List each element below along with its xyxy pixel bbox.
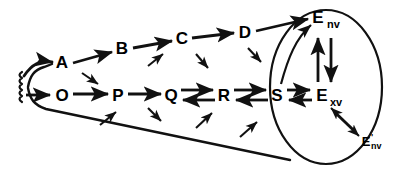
node-label-D: D <box>239 23 251 42</box>
exv-subscript: xv <box>330 96 343 108</box>
node-label-R: R <box>218 86 230 105</box>
eprime-subscript: nv <box>371 141 382 151</box>
diagram-canvas: A B C D O P Q R S E nv E xv E ' nv <box>0 0 414 174</box>
node-label-C: C <box>176 29 188 48</box>
pathway-diagram: A B C D O P Q R S E nv E xv E ' nv <box>0 0 414 174</box>
env-subscript: nv <box>327 18 341 30</box>
reversible-arrows <box>181 90 312 100</box>
node-label-B: B <box>116 39 128 58</box>
funnel-outline <box>28 64 290 160</box>
node-label-Eprime-nv: E ' nv <box>362 132 382 151</box>
node-label-A: A <box>56 53 68 72</box>
node-label-P: P <box>112 86 123 105</box>
eprime-base: E <box>362 134 371 149</box>
exv-base: E <box>316 86 327 105</box>
wavy-source-icon <box>20 72 23 102</box>
top-chain-arrows <box>73 19 308 63</box>
env-base: E <box>312 8 323 27</box>
node-label-Q: Q <box>164 86 177 105</box>
exv-eprime-arrows <box>331 108 359 136</box>
node-label-Exv: E xv <box>316 86 343 108</box>
env-exv-arrows <box>318 38 331 82</box>
node-label-O: O <box>55 86 68 105</box>
node-label-S: S <box>271 86 282 105</box>
